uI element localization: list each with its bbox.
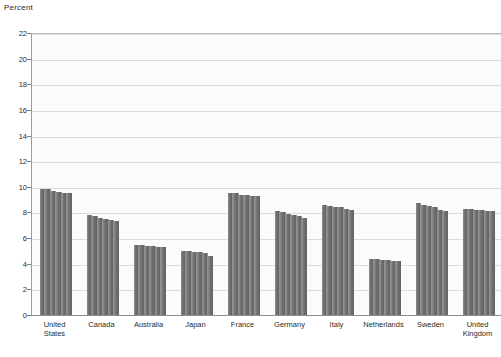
- bar-group: [416, 34, 448, 315]
- y-tick-mark: [27, 161, 31, 162]
- y-tick-label: 18: [5, 80, 27, 89]
- y-tick-label: 2: [5, 285, 27, 294]
- y-tick-mark: [27, 187, 31, 188]
- y-tick-label: 10: [5, 183, 27, 192]
- bar: [255, 196, 260, 315]
- bar: [443, 211, 448, 315]
- y-tick-mark: [27, 264, 31, 265]
- x-tick-label: Sweden: [407, 320, 454, 329]
- y-tick-label: 12: [5, 157, 27, 166]
- y-tick-label: 22: [5, 29, 27, 38]
- bar-group: [369, 34, 401, 315]
- y-tick-label: 14: [5, 132, 27, 141]
- plot-area: [31, 33, 501, 315]
- x-tick-label: Canada: [78, 320, 125, 329]
- y-tick-mark: [27, 84, 31, 85]
- bar-group: [322, 34, 354, 315]
- x-tick-label: France: [219, 320, 266, 329]
- x-tick-label: Germany: [266, 320, 313, 329]
- y-tick-mark: [27, 238, 31, 239]
- y-tick-label: 6: [5, 234, 27, 243]
- y-tick-label: 16: [5, 106, 27, 115]
- y-tick-label: 8: [5, 208, 27, 217]
- y-tick-label: 20: [5, 55, 27, 64]
- y-tick-mark: [27, 59, 31, 60]
- bar: [302, 218, 307, 315]
- y-tick-mark: [27, 289, 31, 290]
- y-tick-mark: [27, 212, 31, 213]
- bar: [349, 210, 354, 315]
- bar: [114, 221, 119, 315]
- bar-group: [463, 34, 495, 315]
- y-tick-label: 4: [5, 260, 27, 269]
- y-tick-mark: [27, 33, 31, 34]
- bar: [396, 261, 401, 315]
- x-tick-label: Italy: [313, 320, 360, 329]
- x-tick-label: Australia: [125, 320, 172, 329]
- bar: [161, 247, 166, 315]
- bar-chart: Percent 2220181614121086420 United State…: [0, 0, 501, 357]
- bar-group: [134, 34, 166, 315]
- y-tick-mark: [27, 110, 31, 111]
- bar: [67, 193, 72, 315]
- y-tick-mark: [27, 136, 31, 137]
- x-tick-label: Japan: [172, 320, 219, 329]
- y-axis-title: Percent: [4, 3, 33, 12]
- y-tick-label: 0: [5, 311, 27, 320]
- x-axis-line: [31, 315, 501, 316]
- bar: [490, 211, 495, 315]
- bar-group: [181, 34, 213, 315]
- x-tick-label: United States: [31, 320, 78, 338]
- bar-group: [40, 34, 72, 315]
- bar-group: [275, 34, 307, 315]
- bar: [208, 256, 213, 315]
- x-tick-label: United Kingdom: [454, 320, 501, 338]
- x-tick-label: Netherlands: [360, 320, 407, 329]
- bar-group: [87, 34, 119, 315]
- bar-group: [228, 34, 260, 315]
